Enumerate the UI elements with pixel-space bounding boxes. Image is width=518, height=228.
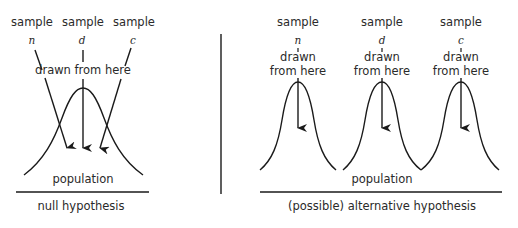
alt-var-c: c xyxy=(458,34,464,46)
alt-caption: (possible) alternative hypothesis xyxy=(288,200,476,213)
null-sample-d-label: sample xyxy=(62,16,104,29)
alt-drawn-c-line1: drawn xyxy=(443,51,479,64)
alt-drawn-n-line2: from here xyxy=(270,65,326,78)
null-sample-n-label: sample xyxy=(11,16,53,29)
null-caption: null hypothesis xyxy=(37,200,124,213)
alt-population-label: population xyxy=(351,173,412,186)
null-population-label: population xyxy=(52,173,113,186)
alt-sample-d-label: sample xyxy=(361,16,403,29)
alt-drawn-n-line1: drawn xyxy=(280,51,316,64)
null-drawn-label: drawn from here xyxy=(35,64,131,77)
alt-drawn-d-line2: from here xyxy=(354,65,410,78)
null-var-c: c xyxy=(130,34,136,46)
alt-var-d: d xyxy=(379,34,386,46)
alt-drawn-d-line1: drawn xyxy=(364,51,400,64)
alt-drawn-c-line2: from here xyxy=(433,65,489,78)
arrow-sample-c-lower xyxy=(100,79,121,148)
null-sample-c-label: sample xyxy=(113,16,155,29)
alt-population-curve-c xyxy=(421,82,499,170)
alt-sample-c-label: sample xyxy=(440,16,482,29)
null-var-d: d xyxy=(79,34,86,46)
alt-var-n: n xyxy=(295,34,302,46)
alt-sample-n-label: sample xyxy=(277,16,319,29)
null-var-n: n xyxy=(29,34,36,46)
